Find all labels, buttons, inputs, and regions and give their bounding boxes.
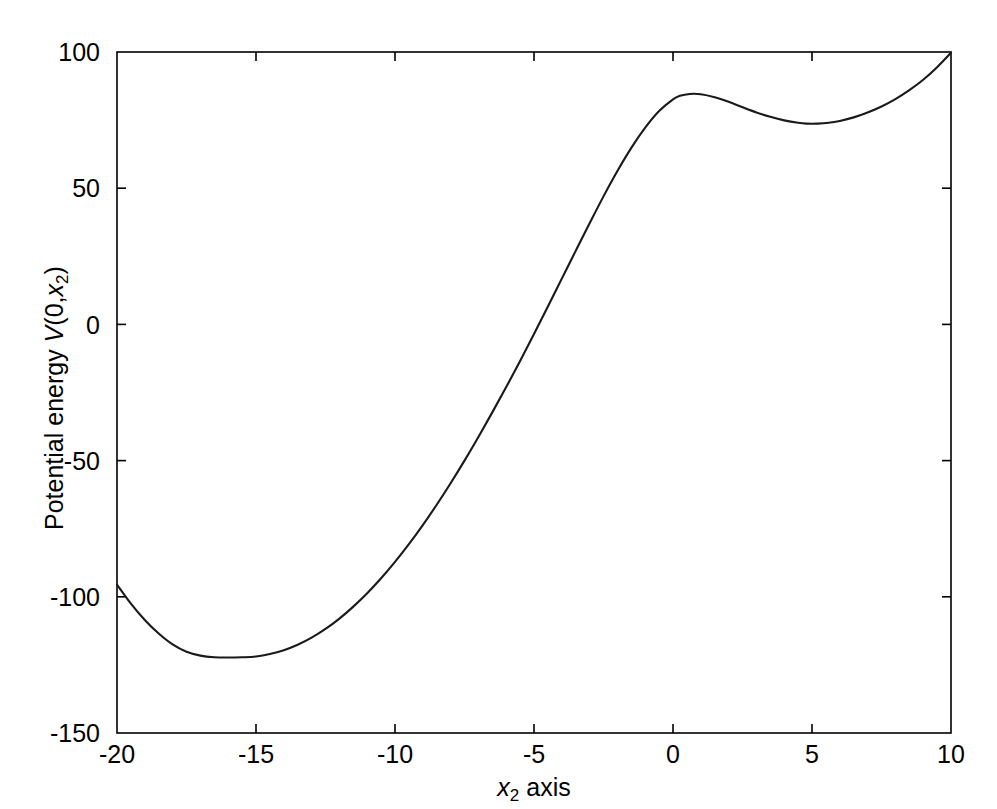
xtick-label-0: 0 <box>666 742 680 767</box>
xtick-label-neg5: -5 <box>523 742 545 767</box>
y-axis-title-subscript: 2 <box>53 275 72 284</box>
ytick-label-neg100: -100 <box>0 585 100 610</box>
ytick-label-50: 50 <box>0 176 100 201</box>
plot-frame <box>117 52 951 733</box>
x-axis-title-subscript: 2 <box>510 786 519 805</box>
xtick-label-5: 5 <box>805 742 819 767</box>
xtick-label-neg15: -15 <box>238 742 274 767</box>
y-axis-title-symbol: V <box>40 326 68 343</box>
x-axis-title-variable: x <box>497 773 510 801</box>
xtick-label-10: 10 <box>937 742 965 767</box>
y-axis-title: Potential energy V(0,x2) <box>42 266 71 530</box>
x-axis-title-rest: axis <box>519 773 570 801</box>
y-axis-title-args: (0, <box>40 297 68 326</box>
y-axis-title-variable: x <box>40 284 68 297</box>
ytick-label-100: 100 <box>0 40 100 65</box>
data-curve-potential-energy <box>117 53 951 658</box>
ytick-label-neg150: -150 <box>0 721 100 746</box>
xtick-label-neg10: -10 <box>377 742 413 767</box>
tick-marks <box>117 52 951 733</box>
plot-canvas <box>0 0 997 809</box>
figure-container: 100 50 0 -50 -100 -150 -20 -15 -10 -5 0 … <box>0 0 997 809</box>
xtick-label-neg20: -20 <box>99 742 135 767</box>
x-axis-title: x2 axis <box>497 775 570 804</box>
y-axis-title-close: ) <box>40 266 68 274</box>
y-axis-title-prefix: Potential energy <box>40 342 68 530</box>
